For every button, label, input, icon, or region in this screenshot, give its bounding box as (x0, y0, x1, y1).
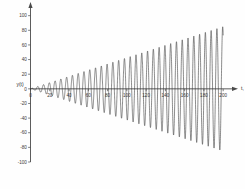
y-tick-label: 80 (22, 28, 28, 33)
x-tick-label: 0 (29, 93, 32, 98)
x-tick-label: 100 (123, 93, 131, 98)
y-axis-tick-labels: -100-80-60-40-20020406080100 (18, 13, 28, 164)
x-tick-label: 80 (105, 93, 111, 98)
series-line-y-of-t (31, 27, 224, 150)
x-tick-label: 40 (66, 93, 72, 98)
y-tick-label: -100 (18, 160, 28, 165)
y-tick-label: 60 (22, 43, 28, 48)
x-tick-label: 140 (162, 93, 170, 98)
y-tick-label: 0 (24, 87, 27, 92)
x-axis-title: t, s (241, 85, 245, 91)
x-tick-label: 160 (181, 93, 189, 98)
oscillation-line-chart: 020406080100120140160180200 -100-80-60-4… (0, 0, 245, 189)
x-tick-label: 60 (86, 93, 92, 98)
y-axis-title: y(t) (16, 81, 24, 87)
chart-figure: 020406080100120140160180200 -100-80-60-4… (0, 0, 245, 189)
y-tick-label: -20 (20, 101, 27, 106)
y-tick-label: 20 (22, 72, 28, 77)
y-tick-label: 100 (19, 13, 27, 18)
y-tick-label: -80 (20, 145, 27, 150)
y-axis-arrow-icon (28, 2, 32, 8)
y-tick-label: -60 (20, 130, 27, 135)
x-tick-label: 200 (219, 93, 227, 98)
y-tick-label: -40 (20, 116, 27, 121)
y-tick-label: 40 (22, 57, 28, 62)
x-axis-arrow-icon (232, 87, 238, 91)
